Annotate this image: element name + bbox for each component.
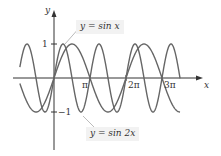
callout-sin-2x: y = sin 2x bbox=[86, 127, 139, 141]
callout-sin-x: y = sin x bbox=[76, 20, 124, 34]
tick-label-2pi: 2π bbox=[128, 81, 140, 90]
tick-label-neg1: −1 bbox=[58, 108, 71, 117]
tick-label-3pi: 3π bbox=[164, 81, 176, 90]
y-axis-label: y bbox=[45, 6, 50, 15]
x-axis-arrow-icon bbox=[196, 76, 203, 81]
x-axis-label: x bbox=[204, 81, 209, 90]
y-axis-arrow-icon bbox=[52, 10, 57, 17]
tick-label-pi: π bbox=[82, 81, 88, 90]
tick-label-1: 1 bbox=[42, 40, 48, 49]
